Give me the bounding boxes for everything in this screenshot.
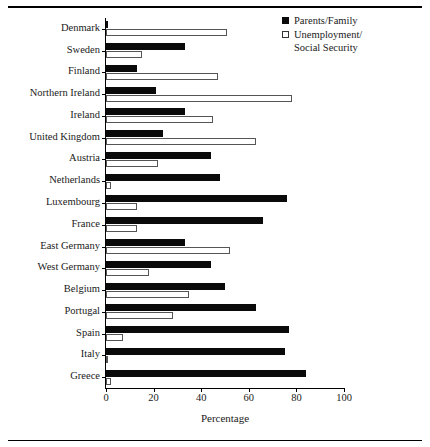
bar-parents-family xyxy=(106,304,256,311)
bar-parents-family xyxy=(106,174,220,181)
plot-area: DenmarkSwedenFinlandNorthern IrelandIrel… xyxy=(106,18,344,388)
bar-unemployment-social-security xyxy=(106,378,111,385)
x-axis-tick-label: 100 xyxy=(336,393,352,404)
bar-unemployment-social-security xyxy=(106,160,158,167)
bar-unemployment-social-security xyxy=(106,203,137,210)
bar-group: Italy xyxy=(106,344,344,366)
bar-group: Finland xyxy=(106,62,344,84)
category-label: Portugal xyxy=(64,306,100,317)
category-label: Greece xyxy=(70,371,100,382)
bar-group: East Germany xyxy=(106,236,344,258)
bar-group: Portugal xyxy=(106,301,344,323)
bar-unemployment-social-security xyxy=(106,291,189,298)
bar-unemployment-social-security xyxy=(106,95,292,102)
bar-unemployment-social-security xyxy=(106,247,230,254)
bar-group: Spain xyxy=(106,323,344,345)
bar-unemployment-social-security xyxy=(106,269,149,276)
category-label: Luxembourg xyxy=(46,197,100,208)
bar-parents-family xyxy=(106,239,185,246)
bar-unemployment-social-security xyxy=(106,51,142,58)
bar-unemployment-social-security xyxy=(106,29,227,36)
legend-swatch-filled-icon xyxy=(282,17,289,24)
bar-group: France xyxy=(106,214,344,236)
x-axis-tick-label: 0 xyxy=(103,393,108,404)
bar-unemployment-social-security xyxy=(106,182,111,189)
bar-parents-family xyxy=(106,43,185,50)
bar-parents-family xyxy=(106,370,306,377)
bar-group: West Germany xyxy=(106,257,344,279)
category-label: East Germany xyxy=(40,241,100,252)
category-label: West Germany xyxy=(38,262,100,273)
bar-unemployment-social-security xyxy=(106,312,173,319)
bar-parents-family xyxy=(106,348,285,355)
x-axis-tick-label: 20 xyxy=(148,393,159,404)
bar-parents-family xyxy=(106,261,211,268)
bar-parents-family xyxy=(106,152,211,159)
figure-container: DenmarkSwedenFinlandNorthern IrelandIrel… xyxy=(0,0,430,447)
legend-label-parents-family: Parents/Family xyxy=(294,14,358,27)
bar-group: Northern Ireland xyxy=(106,83,344,105)
category-label: Belgium xyxy=(64,284,100,295)
legend-item-unemployment-social-security: Unemployment/ Social Security xyxy=(282,28,362,54)
bar-group: United Kingdom xyxy=(106,127,344,149)
legend-item-parents-family: Parents/Family xyxy=(282,14,362,27)
x-axis-tick-label: 80 xyxy=(291,393,302,404)
bar-unemployment-social-security xyxy=(106,225,137,232)
category-label: France xyxy=(71,219,100,230)
category-label: Sweden xyxy=(67,45,100,56)
chart-legend: Parents/Family Unemployment/ Social Secu… xyxy=(282,14,362,55)
bar-unemployment-social-security xyxy=(106,73,218,80)
legend-swatch-hollow-icon xyxy=(282,31,289,38)
category-label: Netherlands xyxy=(49,175,100,186)
bar-parents-family xyxy=(106,21,108,28)
bar-unemployment-social-security xyxy=(106,116,213,123)
bar-unemployment-social-security xyxy=(106,138,256,145)
bar-parents-family xyxy=(106,195,287,202)
category-label: Denmark xyxy=(61,23,100,34)
bar-group: Ireland xyxy=(106,105,344,127)
legend-label-unemployment-social-security: Unemployment/ Social Security xyxy=(294,28,362,54)
x-axis-line xyxy=(105,388,345,389)
bar-parents-family xyxy=(106,65,137,72)
category-label: Ireland xyxy=(70,110,100,121)
bar-unemployment-social-security xyxy=(106,356,108,363)
x-axis-title: Percentage xyxy=(106,412,344,424)
bottom-divider-rule xyxy=(8,440,422,441)
category-label: Italy xyxy=(81,349,100,360)
category-label: Austria xyxy=(69,153,100,164)
category-label: United Kingdom xyxy=(29,132,100,143)
bar-group: Luxembourg xyxy=(106,192,344,214)
bar-parents-family xyxy=(106,87,156,94)
bar-parents-family xyxy=(106,217,263,224)
category-label: Finland xyxy=(68,66,100,77)
bar-parents-family xyxy=(106,283,225,290)
category-label: Northern Ireland xyxy=(30,88,100,99)
bar-unemployment-social-security xyxy=(106,334,123,341)
bar-parents-family xyxy=(106,326,289,333)
x-axis-tick-label: 40 xyxy=(196,393,207,404)
bar-parents-family xyxy=(106,130,163,137)
bar-parents-family xyxy=(106,108,185,115)
x-axis-tick-label: 60 xyxy=(244,393,255,404)
bar-group: Belgium xyxy=(106,279,344,301)
top-divider-rule xyxy=(8,6,422,8)
category-label: Spain xyxy=(76,328,100,339)
bar-group: Austria xyxy=(106,149,344,171)
bar-group: Netherlands xyxy=(106,170,344,192)
bar-group: Greece xyxy=(106,366,344,388)
